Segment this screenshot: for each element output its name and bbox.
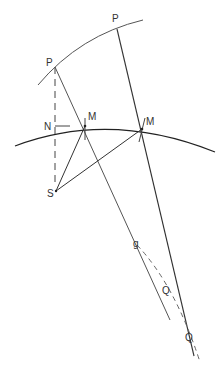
label-p2: P [112,14,119,24]
outer-orbit-arc [38,20,143,85]
line-s-m2 [56,129,142,191]
label-q1: Q [162,286,170,296]
line-s-m1 [56,126,85,191]
label-m2: M [146,117,154,127]
m1-point [84,125,87,128]
line-p2-m2-q [117,29,194,356]
orbit-diagram: P P N M M S g Q Q [0,0,223,378]
label-g: g [133,239,139,249]
label-q2: Q [185,333,193,343]
diagram-lines [0,0,223,378]
label-s: S [47,189,54,199]
label-n: N [44,122,51,132]
label-m1: M [88,112,96,122]
dashed-curve-g [137,245,200,362]
line-p1-m1-q [55,67,170,320]
label-p1: P [46,58,53,68]
m2-point [141,128,144,131]
s-point [55,190,57,192]
